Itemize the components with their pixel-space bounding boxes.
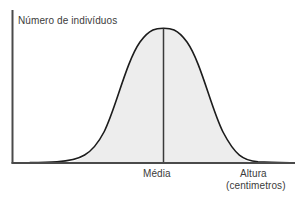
curve-fill: [12, 28, 295, 163]
x-axis-label-units: (centimetros): [226, 180, 301, 192]
x-axis-label-title: Altura: [226, 168, 301, 180]
normal-distribution-figure: Número de indivíduos Média Altura (centi…: [0, 0, 301, 200]
y-axis-label: Número de indivíduos: [18, 15, 117, 27]
x-axis-label: Altura (centimetros): [0, 168, 301, 192]
